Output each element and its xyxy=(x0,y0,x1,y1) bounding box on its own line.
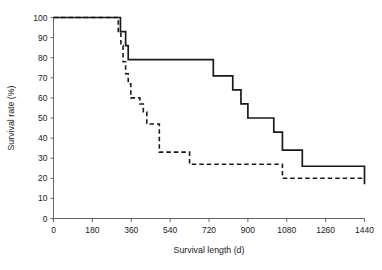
y-tick-label: 80 xyxy=(38,53,48,63)
y-tick-label: 100 xyxy=(33,13,47,23)
x-tick-label: 1080 xyxy=(277,225,296,235)
y-tick-label: 60 xyxy=(38,93,48,103)
x-tick-label: 540 xyxy=(163,225,177,235)
y-tick-label: 90 xyxy=(38,33,48,43)
survival-curve-figure: 0102030405060708090100 01803605407209001… xyxy=(0,0,382,270)
y-tick-label: 50 xyxy=(38,113,48,123)
x-tick-label: 0 xyxy=(51,225,56,235)
y-tick-label: 70 xyxy=(38,73,48,83)
y-tick-label: 0 xyxy=(43,214,48,224)
x-axis-title: Survival length (d) xyxy=(174,245,245,255)
x-tick-label: 1260 xyxy=(316,225,335,235)
x-tick-label: 180 xyxy=(85,225,99,235)
y-tick-label: 30 xyxy=(38,153,48,163)
y-tick-label: 10 xyxy=(38,193,48,203)
x-tick-label: 360 xyxy=(124,225,138,235)
x-tick-label: 900 xyxy=(241,225,255,235)
x-tick-label: 1440 xyxy=(355,225,374,235)
kaplan-meier-chart: 0102030405060708090100 01803605407209001… xyxy=(0,0,382,270)
x-tick-label: 720 xyxy=(202,225,216,235)
y-tick-label: 20 xyxy=(38,173,48,183)
y-axis-title: Survival rate (%) xyxy=(6,85,16,150)
y-tick-label: 40 xyxy=(38,133,48,143)
